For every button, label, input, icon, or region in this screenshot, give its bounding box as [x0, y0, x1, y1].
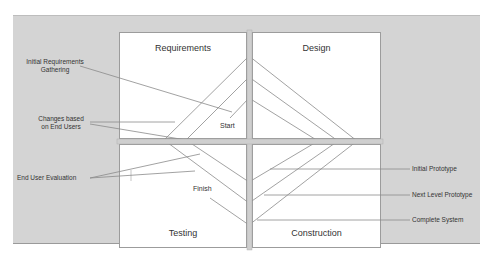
start-marker-label: Start [220, 122, 235, 129]
label-complete-system: Complete System [412, 216, 463, 224]
horizontal-axis-bar [117, 139, 383, 144]
label-initial-requirements: Initial Requirements Gathering [20, 58, 90, 74]
label-next-level-prototype: Next Level Prototype [412, 191, 472, 199]
connector-initial-requirements [80, 66, 232, 112]
finish-marker-label: Finish [193, 185, 212, 192]
spiral-path-lines [0, 0, 494, 275]
label-initial-prototype: Initial Prototype [412, 165, 457, 173]
label-changes-end-users: Changes based on End Users [30, 115, 92, 131]
label-end-user-evaluation: End User Evaluation [17, 174, 76, 182]
